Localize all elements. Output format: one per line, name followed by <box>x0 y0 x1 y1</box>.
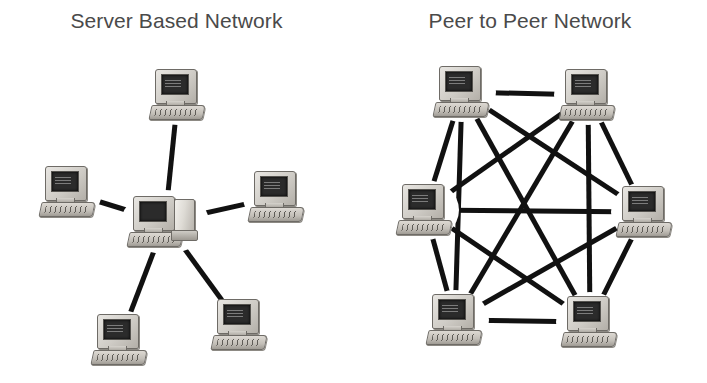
monitor-screen <box>161 74 189 95</box>
diagram-canvas: Server Based Network Peer to Peer Networ… <box>0 0 707 383</box>
keyboard <box>38 202 95 217</box>
monitor-screen <box>571 74 599 95</box>
monitor-screen <box>139 201 167 222</box>
monitor-bezel <box>217 299 259 334</box>
monitor-bezel <box>565 69 607 104</box>
keyboard <box>90 350 147 365</box>
computer-icon[interactable] <box>149 69 207 121</box>
keyboard-keys <box>216 339 260 346</box>
monitor-bezel <box>155 69 197 104</box>
network-link <box>588 95 590 322</box>
computer-icon[interactable] <box>616 186 674 238</box>
keyboard <box>247 207 304 222</box>
keyboard-keys <box>44 206 88 213</box>
monitor-screen <box>408 189 436 210</box>
keyboard-keys <box>154 109 198 116</box>
keyboard <box>425 330 482 345</box>
keyboard-keys <box>566 336 610 343</box>
monitor-screen <box>628 191 656 212</box>
keyboard-keys <box>401 224 445 231</box>
computer-icon[interactable] <box>248 171 306 223</box>
keyboard-keys <box>564 109 608 116</box>
computer-icon[interactable] <box>91 314 149 366</box>
monitor-bezel <box>567 296 609 331</box>
computer-icon[interactable] <box>39 166 97 218</box>
keyboard <box>558 105 615 120</box>
keyboard <box>615 222 672 237</box>
keyboard <box>210 335 267 350</box>
monitor-bezel <box>254 171 296 206</box>
monitor-screen <box>103 319 131 340</box>
server-tower <box>174 199 195 233</box>
keyboard <box>560 332 617 347</box>
monitor-bezel <box>432 294 474 329</box>
computer-icon[interactable] <box>396 184 454 236</box>
keyboard-keys <box>96 354 140 361</box>
computer-icon[interactable] <box>559 69 617 121</box>
server-tower-base <box>171 230 198 241</box>
monitor-screen <box>438 299 466 320</box>
keyboard <box>148 105 205 120</box>
keyboard-keys <box>431 334 475 341</box>
computer-icon[interactable] <box>561 296 619 348</box>
monitor-bezel <box>45 166 87 201</box>
monitor-screen <box>445 71 473 92</box>
monitor-bezel <box>97 314 139 349</box>
monitor-bezel <box>402 184 444 219</box>
monitor-screen <box>51 171 79 192</box>
computer-icon[interactable] <box>426 294 484 346</box>
monitor-bezel <box>439 66 481 101</box>
monitor-bezel <box>133 196 175 231</box>
monitor-bezel <box>622 186 664 221</box>
server-computer-icon[interactable] <box>127 196 203 248</box>
keyboard-keys <box>253 211 297 218</box>
monitor-screen <box>223 304 251 325</box>
monitor-screen <box>573 301 601 322</box>
server-network-panel: Server Based Network <box>0 0 353 383</box>
keyboard <box>395 220 452 235</box>
keyboard-keys <box>438 106 482 113</box>
computer-icon[interactable] <box>433 66 491 118</box>
keyboard <box>432 102 489 117</box>
keyboard-keys <box>621 226 665 233</box>
monitor-screen <box>260 176 288 197</box>
peer-network-panel: Peer to Peer Network <box>353 0 707 383</box>
computer-icon[interactable] <box>211 299 269 351</box>
